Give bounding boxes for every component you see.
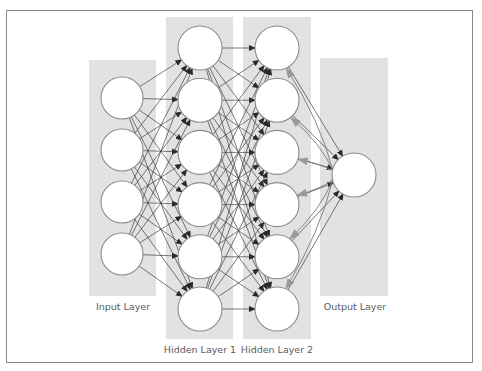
hidden2-node-3: [255, 130, 299, 174]
neural-network-diagram: Input Layer Hidden Layer 1 Hidden Layer …: [0, 0, 482, 371]
hidden1-node-3: [178, 130, 222, 174]
hidden2-node-2: [255, 78, 299, 122]
input-layer-label: Input Layer: [96, 301, 150, 312]
hidden1-node-6: [178, 287, 222, 331]
hidden1-node-5: [178, 235, 222, 279]
hidden1-node-1: [178, 26, 222, 70]
output-node-1: [332, 153, 376, 197]
input-node-4: [101, 233, 143, 275]
input-node-1: [101, 77, 143, 119]
hidden2-node-1: [255, 26, 299, 70]
hidden2-node-4: [255, 183, 299, 227]
hidden-layer-2-label: Hidden Layer 2: [241, 344, 313, 355]
hidden-layer-1-label: Hidden Layer 1: [164, 344, 236, 355]
hidden1-node-2: [178, 78, 222, 122]
input-node-3: [101, 181, 143, 223]
hidden1-node-4: [178, 183, 222, 227]
input-node-2: [101, 129, 143, 171]
output-layer-label: Output Layer: [324, 301, 387, 312]
hidden2-node-5: [255, 235, 299, 279]
hidden2-node-6: [255, 287, 299, 331]
